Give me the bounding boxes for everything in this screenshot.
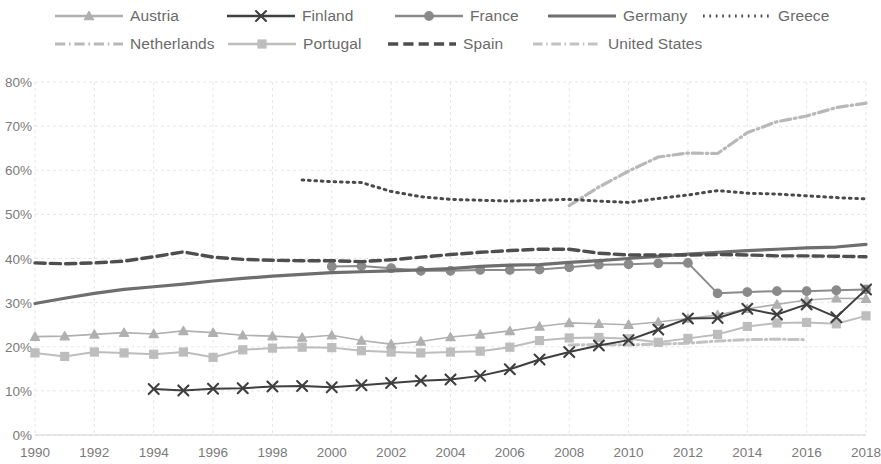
legend-swatch-austria-icon [52,7,126,25]
plot-area: 0%10%20%30%40%50%60%70%80% 1990199219941… [0,62,876,464]
legend-swatch-greece-icon [700,7,774,25]
legend-label: Spain [459,35,503,53]
legend-swatch-finland-icon [224,7,298,25]
legend-swatch-france-icon [392,7,466,25]
chart-canvas [0,62,876,464]
legend-item-france[interactable]: France [392,2,519,30]
chart-legend: AustriaFinlandFranceGermanyGreece Nether… [0,0,876,62]
legend-label: Germany [619,7,687,25]
legend-label: Netherlands [126,35,215,53]
legend-label: Greece [774,7,829,25]
legend-swatch-united-states-icon [530,35,604,53]
legend-label: United States [604,35,702,53]
legend-label: Finland [298,7,354,25]
legend-swatch-spain-icon [385,35,459,53]
legend-item-greece[interactable]: Greece [700,2,829,30]
legend-item-spain[interactable]: Spain [385,30,503,58]
legend-item-portugal[interactable]: Portugal [225,30,362,58]
legend-label: Portugal [299,35,362,53]
legend-item-germany[interactable]: Germany [545,2,687,30]
legend-label: France [466,7,519,25]
legend-item-united-states[interactable]: United States [530,30,702,58]
legend-swatch-netherlands-icon [52,35,126,53]
legend-item-netherlands[interactable]: Netherlands [52,30,215,58]
legend-row-1: AustriaFinlandFranceGermanyGreece [0,2,876,30]
grid-lines [35,82,866,435]
legend-item-austria[interactable]: Austria [52,2,179,30]
legend-swatch-germany-icon [545,7,619,25]
legend-row-2: NetherlandsPortugalSpainUnited States [0,30,876,58]
legend-swatch-portugal-icon [225,35,299,53]
series-greece [302,180,866,203]
legend-label: Austria [126,7,179,25]
series-france [327,259,870,298]
legend-item-finland[interactable]: Finland [224,2,354,30]
